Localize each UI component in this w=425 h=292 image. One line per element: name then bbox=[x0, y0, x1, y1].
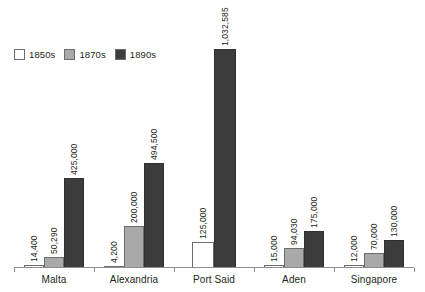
category-label: Aden bbox=[254, 274, 334, 286]
bar-value-label: 125,000 bbox=[199, 207, 208, 238]
bar-group: 4,200200,000494,500 bbox=[94, 14, 174, 268]
bar-groups: 14,40050,290425,0004,200200,000494,50012… bbox=[14, 14, 414, 268]
bar-slot: 425,000 bbox=[64, 14, 84, 268]
bar-value-label: 14,400 bbox=[30, 235, 39, 262]
grouped-bar-chart: 1850s 1870s 1890s 14,40050,290425,0004,2… bbox=[0, 0, 425, 292]
bar[interactable]: 175,000 bbox=[304, 231, 324, 268]
category-label: Alexandria bbox=[94, 274, 174, 286]
bar-value-label: 94,030 bbox=[290, 219, 299, 246]
bar-value-label: 50,290 bbox=[50, 228, 59, 255]
axis-tick bbox=[174, 268, 175, 272]
bar[interactable]: 425,000 bbox=[64, 178, 84, 268]
bar[interactable]: 1,032,585 bbox=[214, 49, 236, 268]
bar-value-label: 425,000 bbox=[70, 144, 79, 175]
category-label: Singapore bbox=[334, 274, 414, 286]
bar-slot: 1,032,585 bbox=[214, 14, 236, 268]
axis-tick bbox=[254, 268, 255, 272]
bar[interactable]: 130,000 bbox=[384, 240, 404, 268]
bar-value-label: 12,000 bbox=[350, 236, 359, 263]
category-labels: MaltaAlexandriaPort SaidAdenSingapore bbox=[14, 274, 414, 286]
axis-tick bbox=[94, 268, 95, 272]
x-axis-baseline bbox=[14, 267, 414, 268]
bar-slot: 200,000 bbox=[124, 14, 144, 268]
axis-tick bbox=[14, 268, 15, 272]
axis-tick bbox=[334, 268, 335, 272]
bar-group: 15,00094,030175,000 bbox=[254, 14, 334, 268]
bar-slot: 12,000 bbox=[344, 14, 364, 268]
bar-value-label: 200,000 bbox=[130, 191, 139, 222]
bar[interactable]: 125,000 bbox=[192, 242, 214, 268]
bar-slot: 14,400 bbox=[24, 14, 44, 268]
bar[interactable]: 94,030 bbox=[284, 248, 304, 268]
bar-slot: 175,000 bbox=[304, 14, 324, 268]
bar-value-label: 130,000 bbox=[390, 206, 399, 237]
bar-value-label: 1,032,585 bbox=[221, 8, 230, 47]
bar-slot: 15,000 bbox=[264, 14, 284, 268]
bar[interactable]: 200,000 bbox=[124, 226, 144, 268]
axis-tick bbox=[414, 268, 415, 272]
bar[interactable]: 494,500 bbox=[144, 163, 164, 268]
bar-slot: 4,200 bbox=[104, 14, 124, 268]
bar-value-label: 4,200 bbox=[110, 241, 119, 263]
bar-value-label: 494,500 bbox=[150, 129, 159, 160]
bar-group: 125,0001,032,585 bbox=[174, 14, 254, 268]
bar-value-label: 70,000 bbox=[370, 224, 379, 251]
bar-slot: 494,500 bbox=[144, 14, 164, 268]
bar-value-label: 175,000 bbox=[310, 197, 319, 228]
bar[interactable]: 70,000 bbox=[364, 253, 384, 268]
bar-slot: 50,290 bbox=[44, 14, 64, 268]
bar-group: 14,40050,290425,000 bbox=[14, 14, 94, 268]
plot-area: 14,40050,290425,0004,200200,000494,50012… bbox=[14, 14, 414, 268]
bar-slot: 70,000 bbox=[364, 14, 384, 268]
bar-slot: 94,030 bbox=[284, 14, 304, 268]
bar-value-label: 15,000 bbox=[270, 235, 279, 262]
category-label: Port Said bbox=[174, 274, 254, 286]
category-label: Malta bbox=[14, 274, 94, 286]
bar-group: 12,00070,000130,000 bbox=[334, 14, 414, 268]
bar-slot: 125,000 bbox=[192, 14, 214, 268]
bar-slot: 130,000 bbox=[384, 14, 404, 268]
